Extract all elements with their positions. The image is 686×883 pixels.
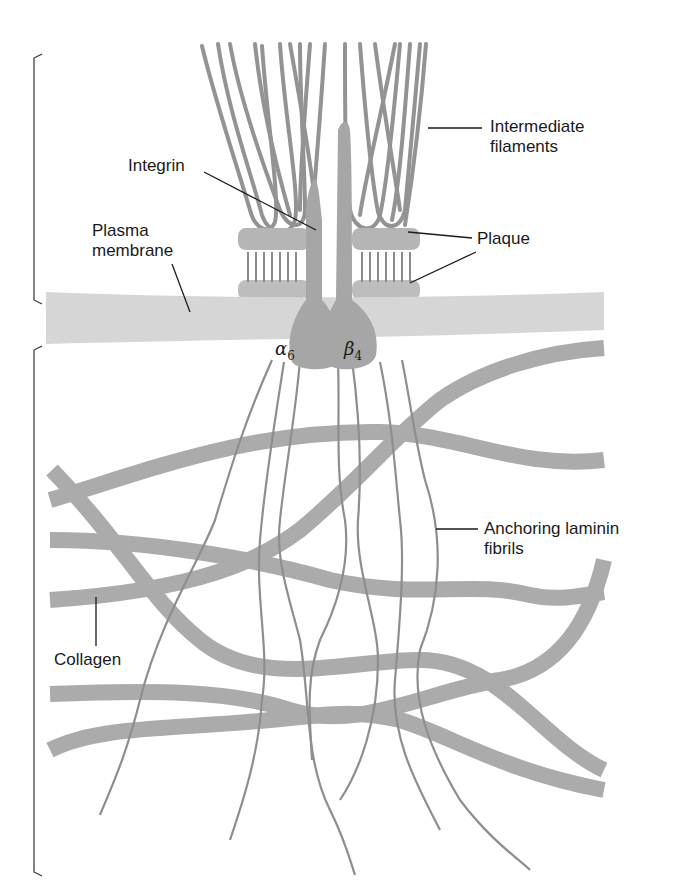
label-alpha6: α6 [275,338,295,363]
extracellular-bracket [34,346,42,876]
label-plaque: Plaque [477,229,530,249]
label-intermediate-filaments: Intermediate filaments [490,117,585,157]
plaque [238,228,420,300]
label-collagen: Collagen [54,650,121,670]
label-integrin: Integrin [128,156,185,176]
label-anchoring-fibrils: Anchoring laminin fibrils [484,519,619,559]
label-plasma-membrane: Plasma membrane [92,221,173,261]
cell-bracket [34,54,42,304]
label-beta4: β4 [344,338,362,363]
